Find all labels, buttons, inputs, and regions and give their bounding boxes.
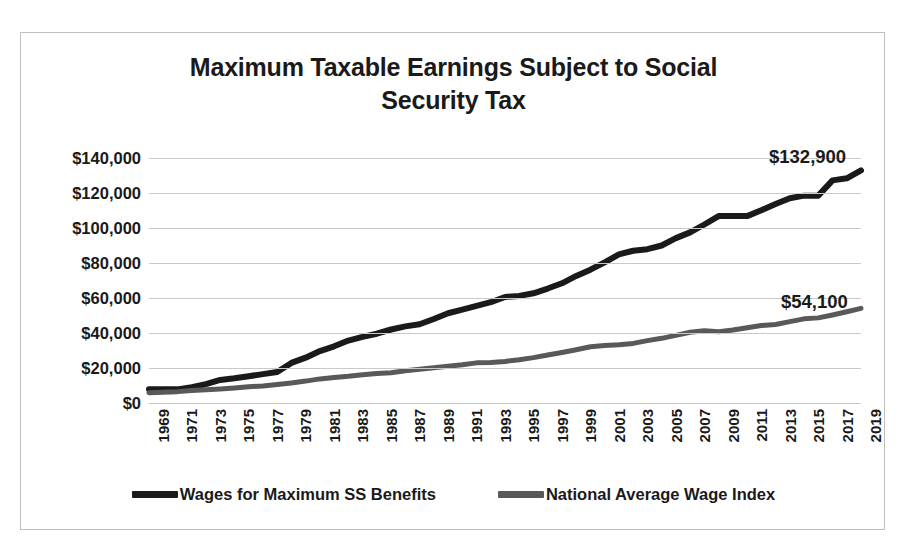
- gridline: [149, 298, 861, 299]
- x-axis-tick-label: 1977: [269, 409, 286, 442]
- x-axis-tick-label: 1995: [525, 409, 542, 442]
- legend-label-secondary: National Average Wage Index: [546, 485, 775, 504]
- x-axis: 1969197119731975197719791981198319851987…: [149, 409, 861, 475]
- series-line-secondary: [149, 308, 861, 392]
- x-axis-tick-label: 2019: [867, 409, 884, 442]
- y-axis-tick-label: $0: [123, 394, 141, 413]
- series-line-primary: [149, 170, 861, 389]
- series-layer: [149, 158, 861, 403]
- legend-label-primary: Wages for Maximum SS Benefits: [180, 485, 436, 504]
- x-axis-tick-label: 1985: [383, 409, 400, 442]
- gridline: [149, 228, 861, 229]
- x-axis-tick-label: 1993: [497, 409, 514, 442]
- gridline: [149, 193, 861, 194]
- x-axis-tick-label: 1991: [468, 409, 485, 442]
- x-axis-tick-label: 2001: [611, 409, 628, 442]
- x-axis-tick-label: 1997: [554, 409, 571, 442]
- gridline: [149, 368, 861, 369]
- x-axis-tick-label: 1999: [582, 409, 599, 442]
- y-axis: $140,000$120,000$100,000$80,000$60,000$4…: [21, 158, 141, 403]
- x-axis-tick-label: 1989: [440, 409, 457, 442]
- x-axis-tick-label: 2005: [668, 409, 685, 442]
- y-axis-tick-label: $140,000: [72, 149, 141, 168]
- annotation-max-taxable-earnings: $132,900: [769, 146, 846, 168]
- chart-legend: Wages for Maximum SS Benefits National A…: [21, 485, 886, 504]
- y-axis-tick-label: $40,000: [81, 324, 141, 343]
- y-axis-tick-label: $100,000: [72, 219, 141, 238]
- x-axis-tick-label: 2017: [839, 409, 856, 442]
- x-axis-tick-label: 2013: [782, 409, 799, 442]
- x-axis-tick-label: 1979: [297, 409, 314, 442]
- gridline: [149, 158, 861, 159]
- x-axis-tick-label: 2007: [696, 409, 713, 442]
- y-axis-tick-label: $60,000: [81, 289, 141, 308]
- legend-swatch-icon-secondary: [498, 491, 544, 498]
- x-axis-tick-label: 1973: [212, 409, 229, 442]
- plot-area: [149, 158, 861, 403]
- x-axis-tick-label: 1987: [411, 409, 428, 442]
- legend-swatch-icon-primary: [132, 491, 178, 498]
- x-axis-tick-label: 1981: [326, 409, 343, 442]
- x-axis-tick-label: 1983: [354, 409, 371, 442]
- x-axis-tick-label: 2003: [639, 409, 656, 442]
- x-axis-tick-label: 1971: [183, 409, 200, 442]
- chart-container: Maximum Taxable Earnings Subject to Soci…: [20, 32, 885, 530]
- x-axis-tick-label: 2015: [810, 409, 827, 442]
- x-axis-tick-label: 1969: [155, 409, 172, 442]
- gridline: [149, 333, 861, 334]
- annotation-national-average-wage: $54,100: [781, 291, 848, 313]
- x-axis-tick-label: 2009: [725, 409, 742, 442]
- y-axis-tick-label: $80,000: [81, 254, 141, 273]
- y-axis-tick-label: $120,000: [72, 184, 141, 203]
- x-axis-tick-label: 1975: [240, 409, 257, 442]
- x-axis-tick-label: 2011: [753, 409, 770, 442]
- plot-region: $140,000$120,000$100,000$80,000$60,000$4…: [21, 33, 886, 531]
- legend-item-wages-for-maximum-ss-benefits: Wages for Maximum SS Benefits: [132, 485, 436, 504]
- gridline: [149, 403, 861, 404]
- y-axis-tick-label: $20,000: [81, 359, 141, 378]
- gridline: [149, 263, 861, 264]
- legend-item-national-average-wage-index: National Average Wage Index: [498, 485, 775, 504]
